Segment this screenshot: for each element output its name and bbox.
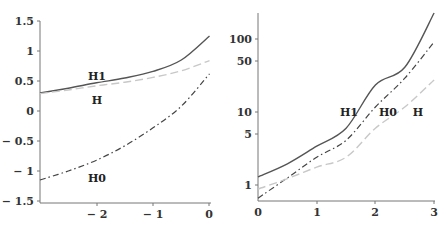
left-x-tick-label: 0	[205, 208, 213, 221]
right-x-tick-label: 2	[371, 206, 379, 219]
left-y-tick-label: 1.5	[15, 15, 34, 28]
right-y-tick-label: 10	[237, 106, 253, 119]
right-curve-h0	[258, 42, 434, 198]
right-y-tick-label: 1	[244, 179, 252, 192]
left-x-tick-label: − 2	[87, 208, 108, 221]
right-label-h0: H0	[379, 106, 397, 119]
left-y-tick-label: − 0.5	[2, 135, 34, 148]
left-label-h1: H1	[88, 70, 106, 83]
right-label-h1: H1	[340, 106, 358, 119]
right-y-tick-label: 50	[237, 55, 253, 68]
right-label-h: H	[413, 106, 423, 119]
left-plot: 1.5 1 0.5 0 − 0.5 − 1 − 1.5 − 2 − 1 0 H1…	[2, 15, 213, 221]
figure: 1.5 1 0.5 0 − 0.5 − 1 − 1.5 − 2 − 1 0 H1…	[0, 0, 448, 232]
right-x-tick-label: 1	[313, 206, 321, 219]
left-y-tick-label: − 1.5	[2, 195, 34, 208]
right-y-tick-label: 100	[229, 33, 252, 46]
right-plot: 100 50 10 5 1 0 1 2 3 H1 H0 H	[229, 13, 438, 219]
left-x-tick-label: − 1	[143, 208, 164, 221]
right-x-tick-label: 3	[430, 206, 438, 219]
left-y-tick-label: 1	[26, 45, 34, 58]
right-curve-h1	[258, 13, 434, 177]
left-label-h: H	[92, 94, 102, 107]
left-curve-h1	[40, 36, 210, 93]
left-y-tick-label: 0.5	[15, 75, 34, 88]
left-y-tick-label: 0	[26, 105, 34, 118]
right-x-tick-label: 0	[254, 206, 262, 219]
left-label-h0: H0	[88, 172, 106, 185]
right-y-tick-label: 5	[244, 128, 252, 141]
right-curve-h	[258, 80, 434, 189]
left-y-tick-label: − 1	[13, 165, 34, 178]
